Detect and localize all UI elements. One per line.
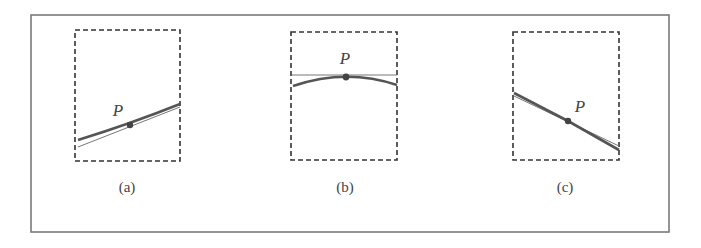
panel-b: P (b) (291, 32, 397, 196)
point-p-c (565, 118, 571, 124)
caption-b: (b) (336, 179, 354, 196)
point-label-c: P (574, 97, 585, 116)
panel-c: P (c) (513, 32, 619, 196)
figure-canvas: P (a) P (b) P (c) (0, 0, 701, 248)
panel-a: P (a) (75, 30, 180, 196)
caption-a: (a) (119, 179, 136, 196)
point-label-a: P (112, 101, 123, 120)
point-label-b: P (339, 49, 350, 68)
caption-c: (c) (557, 179, 574, 196)
point-p-a (127, 122, 133, 128)
point-p-b (343, 74, 350, 81)
zoom-box-a (75, 30, 180, 161)
